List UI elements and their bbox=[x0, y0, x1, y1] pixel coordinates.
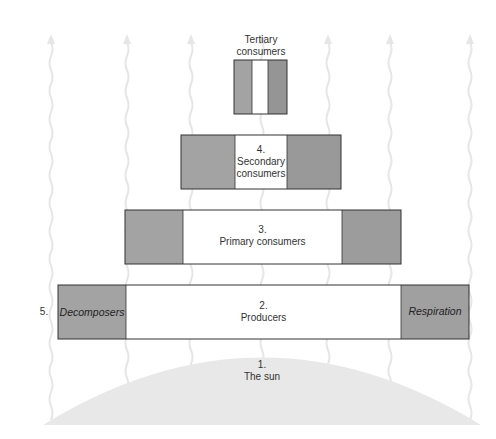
heat-arrow-head-icon bbox=[324, 34, 332, 44]
heat-arrow-head-icon bbox=[187, 34, 195, 44]
sun-label: 1. The sun bbox=[222, 359, 302, 383]
respiration-label: Respiration bbox=[401, 305, 469, 317]
tertiary-center-segment bbox=[252, 60, 268, 114]
heat-arrow-head-icon bbox=[123, 34, 131, 44]
tertiary-consumers-box bbox=[234, 60, 287, 114]
heat-arrow-line bbox=[50, 42, 53, 420]
decomposers-label: Decomposers bbox=[58, 306, 126, 318]
producers-label: 2. Producers bbox=[126, 300, 401, 324]
heat-arrow-head-icon bbox=[47, 34, 55, 44]
tertiary-label-line1: Tertiary bbox=[222, 34, 300, 46]
secondary-left-segment bbox=[181, 135, 235, 189]
tertiary-left-segment bbox=[234, 60, 252, 114]
decomposers-number: 5. bbox=[36, 306, 52, 318]
sun-number: 1. bbox=[222, 359, 302, 371]
heat-arrow-head-icon bbox=[386, 34, 394, 44]
energy-pyramid-diagram: Tertiary consumers 4. Secondary consumer… bbox=[0, 0, 496, 439]
secondary-number: 4. bbox=[233, 144, 289, 156]
secondary-label-line1: Secondary bbox=[233, 156, 289, 168]
sun-label-text: The sun bbox=[222, 371, 302, 383]
primary-label: 3. Primary consumers bbox=[183, 224, 342, 248]
secondary-label-line2: consumers bbox=[233, 168, 289, 180]
heat-arrow-line bbox=[469, 42, 472, 420]
secondary-right-segment bbox=[287, 135, 341, 189]
secondary-label: 4. Secondary consumers bbox=[233, 144, 289, 180]
primary-number: 3. bbox=[183, 224, 342, 236]
heat-arrow-head-icon bbox=[466, 34, 474, 44]
producers-label-text: Producers bbox=[126, 312, 401, 324]
tertiary-label: Tertiary consumers bbox=[222, 34, 300, 58]
primary-left-segment bbox=[125, 210, 183, 264]
producers-number: 2. bbox=[126, 300, 401, 312]
primary-right-segment bbox=[342, 210, 401, 264]
tertiary-label-line2: consumers bbox=[222, 46, 300, 58]
tertiary-right-segment bbox=[268, 60, 287, 114]
primary-label-text: Primary consumers bbox=[183, 236, 342, 248]
